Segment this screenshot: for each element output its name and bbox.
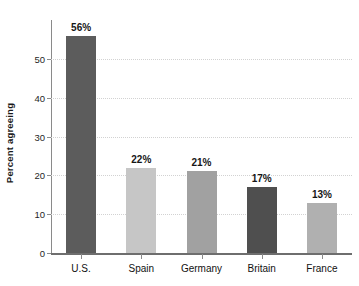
- x-tick-label: Spain: [129, 263, 155, 274]
- y-tick-mark: [47, 214, 51, 215]
- gridline: [51, 59, 352, 60]
- bar-germany: 21%: [187, 171, 217, 253]
- y-tick-label: 30: [34, 131, 45, 142]
- x-tick-mark: [202, 254, 203, 259]
- x-tick-label: France: [306, 263, 337, 274]
- bar-spain: 22%: [126, 168, 156, 253]
- y-tick-mark: [47, 175, 51, 176]
- x-tick-label: U.S.: [71, 263, 90, 274]
- bar-value-label: 21%: [191, 157, 211, 168]
- y-tick-label: 20: [34, 170, 45, 181]
- y-axis-title: Percent agreeing: [0, 0, 18, 286]
- y-tick-mark: [47, 137, 51, 138]
- bar-france: 13%: [307, 203, 337, 253]
- y-tick-label: 10: [34, 209, 45, 220]
- bar-us: 56%: [66, 36, 96, 253]
- bar-value-label: 56%: [71, 22, 91, 33]
- y-tick-label: 40: [34, 92, 45, 103]
- gridline: [51, 137, 352, 138]
- x-tick-mark: [81, 254, 82, 259]
- x-tick-mark: [262, 254, 263, 259]
- bar-value-label: 22%: [131, 154, 151, 165]
- x-tick-label: Britain: [248, 263, 276, 274]
- x-tick-mark: [141, 254, 142, 259]
- x-tick-label: Germany: [181, 263, 222, 274]
- bar-value-label: 17%: [252, 173, 272, 184]
- x-tick-mark: [322, 254, 323, 259]
- bar-value-label: 13%: [312, 189, 332, 200]
- y-tick-mark: [47, 98, 51, 99]
- y-tick-mark: [47, 253, 51, 254]
- bar-chart: Percent agreeing 01020304050 56%22%21%17…: [0, 0, 359, 286]
- y-tick-label: 50: [34, 53, 45, 64]
- plot-area: 01020304050 56%22%21%17%13% U.S.SpainGer…: [51, 20, 352, 253]
- y-tick-mark: [47, 59, 51, 60]
- gridline: [51, 98, 352, 99]
- y-tick-label: 0: [40, 248, 45, 259]
- bar-britain: 17%: [247, 187, 277, 253]
